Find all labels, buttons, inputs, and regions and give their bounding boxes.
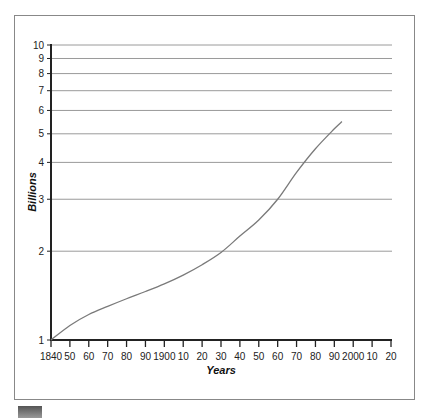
y-tick-label: 3 [38, 194, 44, 205]
x-tick-label: 40 [234, 351, 246, 362]
y-tick-label: 5 [38, 128, 44, 139]
x-tick-label: 20 [385, 351, 397, 362]
x-tick-label: 1900 [153, 351, 176, 362]
y-tick-label: 6 [38, 105, 44, 116]
x-tick-label: 30 [215, 351, 227, 362]
x-tick-label: 1840 [40, 351, 63, 362]
x-tick-label: 50 [253, 351, 265, 362]
x-tick-label: 2000 [342, 351, 365, 362]
x-tick-label: 60 [272, 351, 284, 362]
y-tick-label: 8 [38, 68, 44, 79]
page-corner-icon [18, 406, 42, 418]
x-axis-ticks: 1840506070809019001020304050607080902000… [40, 340, 397, 362]
y-tick-label: 10 [33, 40, 45, 51]
grid-lines [51, 45, 392, 251]
x-tick-label: 10 [178, 351, 190, 362]
x-tick-label: 70 [102, 351, 114, 362]
x-tick-label: 20 [197, 351, 209, 362]
x-axis-title: Years [206, 364, 236, 376]
x-tick-label: 80 [310, 351, 322, 362]
x-tick-label: 80 [121, 351, 133, 362]
y-tick-label: 4 [38, 157, 44, 168]
population-chart: 12345678910 1840506070809019001020304050… [0, 0, 429, 418]
population-line [51, 122, 342, 340]
y-tick-label: 9 [38, 53, 44, 64]
x-tick-label: 90 [140, 351, 152, 362]
y-axis-title: Billions [26, 172, 38, 212]
x-tick-label: 60 [83, 351, 95, 362]
x-tick-label: 70 [291, 351, 303, 362]
y-tick-label: 1 [38, 335, 44, 346]
x-tick-label: 90 [329, 351, 341, 362]
y-tick-label: 2 [38, 246, 44, 257]
x-tick-label: 50 [64, 351, 76, 362]
y-tick-label: 7 [38, 85, 44, 96]
x-tick-label: 10 [367, 351, 379, 362]
